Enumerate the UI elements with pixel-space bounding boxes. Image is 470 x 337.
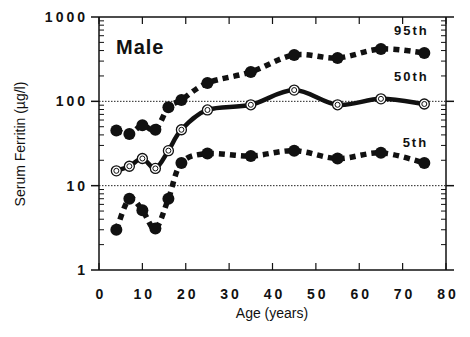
filled-circle-marker [110,224,122,236]
open-circle-marker [376,94,386,104]
filled-circle-marker [123,128,135,140]
reference-lines [99,101,446,185]
open-circle-marker [163,146,173,156]
y-tick-label: 1 [77,262,88,278]
filled-circle-marker [110,125,122,137]
open-circle-marker [289,85,299,95]
filled-circle-marker [149,124,161,136]
filled-circle-marker [288,49,300,61]
open-circle-marker [111,166,121,176]
filled-circle-marker [375,43,387,55]
ferritin-chart: 010203040506070801101001000 Male Age (ye… [0,0,470,337]
x-tick-label: 70 [394,286,416,302]
y-tick-label: 10 [66,178,88,194]
x-tick-label: 10 [134,286,156,302]
percentile-series [110,43,430,236]
y-tick-label: 1000 [45,9,88,25]
open-circle-marker [246,100,256,110]
series-label-95th: 95th [394,23,429,38]
x-axis-title: Age (years) [236,305,308,321]
series-label-50th: 50th [394,69,429,84]
filled-circle-marker [332,52,344,64]
open-circle-marker [333,100,343,110]
filled-circle-marker [288,145,300,157]
filled-circle-marker [245,66,257,78]
open-circle-marker [176,125,186,135]
filled-circle-marker [136,204,148,216]
open-circle-marker [419,99,429,109]
filled-circle-marker [123,193,135,205]
open-circle-marker [137,153,147,163]
filled-circle-marker [418,47,430,59]
filled-circle-marker [149,223,161,235]
series-line [116,49,424,134]
filled-circle-marker [332,152,344,164]
filled-circle-marker [201,77,213,89]
open-circle-marker [150,163,160,173]
filled-circle-marker [375,147,387,159]
x-tick-label: 50 [307,286,329,302]
x-tick-label: 0 [96,286,107,302]
filled-circle-marker [175,94,187,106]
series-label-5th: 5th [403,135,429,150]
x-tick-label: 60 [350,286,372,302]
filled-circle-marker [162,193,174,205]
filled-circle-marker [418,157,430,169]
x-tick-label: 20 [177,286,199,302]
x-tick-label: 80 [437,286,459,302]
panel-label: Male [116,36,164,58]
series-5th [110,145,430,236]
filled-circle-marker [162,101,174,113]
series-labels: 95th50th5th [394,23,429,150]
filled-circle-marker [201,148,213,160]
open-circle-marker [202,105,212,115]
open-circle-marker [124,161,134,171]
filled-circle-marker [175,157,187,169]
y-axis-title: Serum Ferritin (µg/l) [12,82,28,207]
filled-circle-marker [245,150,257,162]
filled-circle-marker [136,119,148,131]
x-tick-label: 40 [264,286,286,302]
x-tick-label: 30 [220,286,242,302]
y-tick-label: 100 [56,93,88,109]
